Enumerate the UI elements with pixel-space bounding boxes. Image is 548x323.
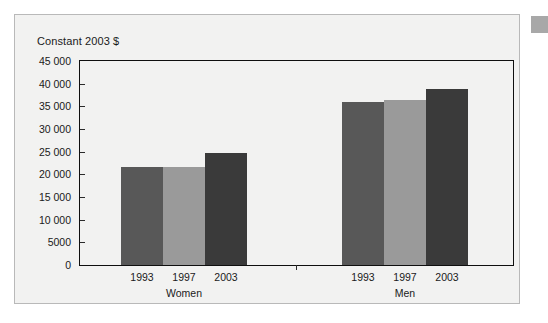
plot-inner: 45 00040 00035 00030 00025 00020 00015 0… [80, 61, 513, 265]
y-axis-tick-mark [80, 220, 85, 221]
figure-panel: Constant 2003 $ 45 00040 00035 00030 000… [14, 14, 520, 304]
x-axis-label-men-2003: 2003 [435, 271, 458, 283]
x-axis-label-women-1993: 1993 [130, 271, 153, 283]
y-axis-tick-label: 10 000 [39, 214, 71, 226]
y-axis-tick-label: 20 000 [39, 168, 71, 180]
x-axis-label-men-1993: 1993 [351, 271, 374, 283]
y-axis-tick-mark [80, 106, 85, 107]
group-label-men: Men [395, 287, 415, 299]
corner-marker [531, 16, 548, 33]
y-axis-tick-label: 40 000 [39, 78, 71, 90]
y-axis-tick-mark [80, 242, 85, 243]
y-axis-tick-mark [80, 152, 85, 153]
y-axis-tick-mark [80, 174, 85, 175]
bar-men-2003 [426, 89, 468, 265]
x-axis-center-tick [296, 265, 297, 270]
y-axis-tick-mark [80, 129, 85, 130]
y-axis-tick-label: 30 000 [39, 123, 71, 135]
x-axis-label-women-1997: 1997 [172, 271, 195, 283]
y-axis-tick-label: 25 000 [39, 146, 71, 158]
bar-women-2003 [205, 153, 247, 265]
y-axis-tick-mark [80, 197, 85, 198]
bar-women-1993 [121, 167, 163, 265]
y-axis-tick-label: 5000 [48, 236, 71, 248]
bar-women-1997 [163, 167, 205, 265]
group-label-women: Women [166, 287, 202, 299]
y-axis-tick-label: 35 000 [39, 100, 71, 112]
page-background: Constant 2003 $ 45 00040 00035 00030 000… [0, 0, 548, 323]
bar-men-1993 [342, 102, 384, 265]
chart-title: Constant 2003 $ [37, 35, 119, 47]
x-axis-label-women-2003: 2003 [214, 271, 237, 283]
y-axis-tick-mark [80, 84, 85, 85]
x-axis-label-men-1997: 1997 [393, 271, 416, 283]
y-axis-tick-label: 15 000 [39, 191, 71, 203]
plot-area: 45 00040 00035 00030 00025 00020 00015 0… [79, 60, 514, 266]
y-axis-tick-label: 0 [65, 259, 71, 271]
y-axis-tick-label: 45 000 [39, 55, 71, 67]
bar-men-1997 [384, 100, 426, 265]
